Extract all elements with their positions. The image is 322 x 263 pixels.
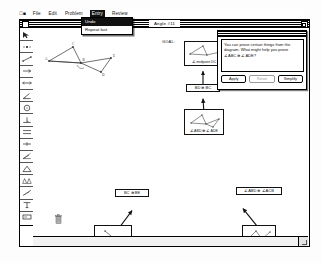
menu-item-entry[interactable]: Entry bbox=[90, 10, 105, 17]
window-body: A C B E D bbox=[20, 28, 309, 246]
grow-box-icon[interactable] bbox=[298, 237, 308, 246]
svg-text:D: D bbox=[102, 73, 105, 77]
menu-item-problem[interactable]: Problem bbox=[64, 11, 84, 16]
congruent-triangles-tool[interactable] bbox=[20, 175, 33, 187]
hint-message: You can prove certain things from the di… bbox=[221, 39, 304, 72]
diagram-node-abd-ade-caption: ∠ABD ≅ ∠ADE bbox=[190, 130, 218, 134]
selection-arrow-tool[interactable] bbox=[20, 29, 33, 41]
triangle-tool[interactable] bbox=[20, 163, 33, 175]
measure-tool[interactable] bbox=[20, 187, 33, 199]
svg-text:E: E bbox=[113, 54, 115, 58]
apply-button[interactable]: Apply bbox=[221, 75, 246, 83]
menu-option-repeat-last[interactable]: Repeat last bbox=[82, 26, 132, 34]
statement-node-abd-acb[interactable]: ∠ABD ≅ ∠ACB bbox=[236, 187, 282, 195]
menu-item-edit[interactable]: Edit bbox=[48, 11, 58, 16]
svg-text:A: A bbox=[45, 57, 48, 61]
hint-button-row: Apply Reset Simplify bbox=[218, 74, 306, 83]
segment-tool[interactable] bbox=[20, 53, 33, 65]
text-tool[interactable] bbox=[20, 200, 33, 212]
diagram-node-abd-ade[interactable]: ∠ABD ≅ ∠ADE bbox=[184, 109, 224, 135]
circle-tool[interactable] bbox=[20, 102, 33, 114]
bisector-tool[interactable] bbox=[20, 151, 33, 163]
menu-bar: ■ File Edit Problem Entry Review bbox=[19, 9, 304, 18]
desktop-background: ■ File Edit Problem Entry Review Undo R… bbox=[0, 0, 322, 263]
goal-label: GOAL: bbox=[162, 39, 175, 44]
diagram-node-given-figure bbox=[95, 226, 133, 236]
parallel-tool[interactable] bbox=[20, 127, 33, 139]
svg-text:C: C bbox=[72, 42, 75, 46]
close-box-icon[interactable] bbox=[22, 21, 29, 28]
midpoint-tool[interactable] bbox=[20, 139, 33, 151]
point-tool[interactable] bbox=[20, 41, 33, 53]
diagram-node-bd-dc[interactable]: BD ≅ DC bbox=[242, 225, 276, 236]
menu-option-undo[interactable]: Undo bbox=[82, 18, 132, 26]
menu-item-review[interactable]: Review bbox=[111, 11, 129, 16]
simplify-button[interactable]: Simplify bbox=[278, 75, 303, 83]
zoom-box-icon[interactable] bbox=[301, 21, 308, 28]
statement-node-bd-bc[interactable]: BD ≅ BC bbox=[186, 84, 220, 92]
main-geometry-figure: A C B E D bbox=[43, 39, 121, 81]
apple-icon[interactable]: ■ bbox=[19, 11, 26, 16]
goal-node-caption: ∠ midpoint DC bbox=[192, 61, 217, 65]
window-title: Angle #11 bbox=[149, 20, 180, 27]
window-title-bar[interactable]: Angle #11 bbox=[20, 20, 309, 28]
problem-window: Angle #11 bbox=[19, 19, 310, 247]
hint-panel-title-bar[interactable] bbox=[218, 31, 306, 37]
reset-button[interactable]: Reset bbox=[249, 75, 274, 83]
horizontal-scrollbar[interactable] bbox=[33, 236, 308, 246]
line-tool[interactable] bbox=[20, 78, 33, 90]
svg-text:B: B bbox=[83, 58, 86, 62]
perpendicular-tool[interactable] bbox=[20, 114, 33, 126]
tool-palette bbox=[20, 29, 34, 226]
entry-menu-dropdown: Undo Repeat last bbox=[81, 17, 133, 35]
ray-tool[interactable] bbox=[20, 66, 33, 78]
diagram-node-abd-ade-figure bbox=[185, 110, 225, 130]
hint-panel: You can prove certain things from the di… bbox=[217, 30, 307, 90]
statement-node-bc-be[interactable]: BC ≅ BE bbox=[115, 189, 149, 197]
menu-item-file[interactable]: File bbox=[32, 11, 42, 16]
diagram-node-given[interactable]: ∠ midpoint EC bbox=[94, 225, 132, 236]
diagram-node-bd-dc-figure bbox=[243, 226, 277, 236]
trash-can-icon[interactable] bbox=[55, 214, 62, 224]
statement-box-tool[interactable] bbox=[20, 212, 33, 223]
angle-tool[interactable] bbox=[20, 90, 33, 102]
